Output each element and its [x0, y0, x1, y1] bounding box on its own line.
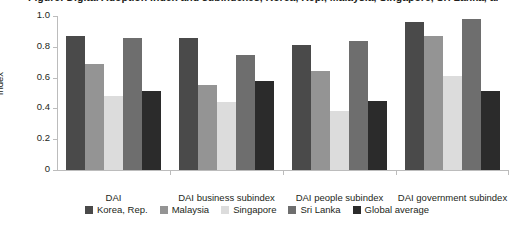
y-axis-tick: 0: [0, 170, 57, 171]
y-axis-title: Index: [0, 72, 5, 95]
bar-group: DAI business subindex: [170, 16, 283, 170]
bar: [424, 36, 443, 170]
bar: [85, 64, 104, 170]
y-axis-tick: 0.6: [0, 78, 57, 79]
y-axis-tick: 1.0: [0, 16, 57, 17]
x-axis-group-label: DAI: [55, 192, 173, 204]
bar: [198, 85, 217, 170]
y-axis-tick-label: 1.0: [37, 9, 50, 20]
legend-item: Korea, Rep.: [85, 204, 148, 215]
bar-group-bars: [170, 16, 283, 170]
bar: [179, 38, 198, 170]
bar: [104, 96, 123, 170]
x-axis-group-label: DAI government subindex: [394, 192, 512, 204]
bar: [66, 36, 85, 170]
bar-group-bars: [283, 16, 396, 170]
y-axis-tick-label: 0.4: [37, 101, 50, 112]
y-axis-tick-label: 0.2: [37, 132, 50, 143]
bar: [123, 38, 142, 170]
chart-legend: Korea, Rep.MalaysiaSingaporeSri LankaGlo…: [0, 204, 514, 215]
x-axis-group-label: DAI business subindex: [168, 192, 286, 204]
y-axis-tick-label: 0.8: [37, 40, 50, 51]
bar: [481, 91, 500, 170]
x-axis-group-separator: [396, 170, 397, 175]
legend-item: Global average: [353, 204, 429, 215]
y-axis-tick: 0.2: [0, 139, 57, 140]
bar: [462, 19, 481, 170]
x-axis-group-separator: [508, 170, 509, 175]
y-axis-tick-mark: [53, 170, 57, 171]
bar: [142, 91, 161, 170]
chart-figure: Figure: Digital Adoption Index and subin…: [0, 0, 514, 228]
legend-item: Singapore: [221, 204, 276, 215]
bar: [311, 71, 330, 170]
bar-group: DAI government subindex: [396, 16, 509, 170]
bar-group-bars: [57, 16, 170, 170]
legend-label: Korea, Rep.: [97, 204, 148, 215]
legend-swatch: [221, 206, 229, 214]
bar: [255, 81, 274, 170]
bar: [217, 102, 236, 170]
x-axis-group-separator: [283, 170, 284, 175]
y-axis-tick-label: 0: [45, 163, 50, 174]
legend-item: Malaysia: [160, 204, 210, 215]
bar-group: DAI people subindex: [283, 16, 396, 170]
bar: [330, 111, 349, 170]
bar-group-bars: [396, 16, 509, 170]
legend-label: Sri Lanka: [300, 204, 340, 215]
legend-swatch: [85, 206, 93, 214]
bar: [349, 41, 368, 170]
legend-swatch: [353, 206, 361, 214]
legend-label: Malaysia: [172, 204, 210, 215]
legend-label: Global average: [365, 204, 429, 215]
x-axis-group-separator: [170, 170, 171, 175]
chart-title: Figure: Digital Adoption Index and subin…: [28, 0, 498, 3]
legend-label: Singapore: [233, 204, 276, 215]
x-axis-group-label: DAI people subindex: [281, 192, 399, 204]
legend-swatch: [288, 206, 296, 214]
y-axis-tick: 0.8: [0, 47, 57, 48]
bar: [443, 76, 462, 170]
bar: [292, 45, 311, 170]
legend-item: Sri Lanka: [288, 204, 340, 215]
bar: [368, 101, 387, 170]
bar: [236, 55, 255, 171]
y-axis-tick: 0.4: [0, 108, 57, 109]
bar: [405, 22, 424, 170]
y-axis-tick-label: 0.6: [37, 71, 50, 82]
bar-group: DAI: [57, 16, 170, 170]
legend-swatch: [160, 206, 168, 214]
